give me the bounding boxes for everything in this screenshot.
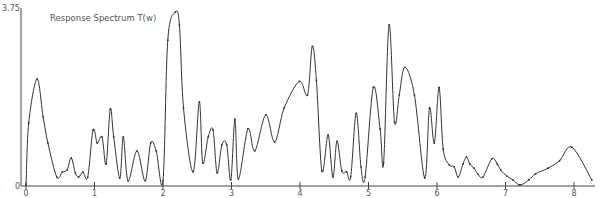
chart-canvas: 012345678 3.75 0 Response Spectrum T(w) (0, 0, 601, 198)
x-tick-label: 4 (297, 189, 302, 198)
data-point (78, 176, 80, 178)
data-point (332, 176, 334, 178)
data-point (254, 150, 256, 152)
x-tick-label: 7 (503, 189, 508, 198)
data-point (155, 150, 157, 152)
data-point (183, 107, 185, 109)
x-tick-label: 2 (160, 189, 165, 198)
data-point (500, 169, 502, 171)
data-point (298, 80, 300, 82)
data-point (122, 136, 124, 138)
response-spectrum-chart: 012345678 3.75 0 Response Spectrum T(w) (0, 0, 601, 198)
data-point (383, 162, 385, 164)
data-point (42, 116, 44, 118)
data-point (360, 166, 362, 168)
data-point (307, 94, 309, 96)
data-point (462, 163, 464, 165)
data-point (528, 179, 530, 181)
data-point (167, 39, 169, 41)
data-point (216, 172, 218, 174)
data-point (162, 180, 164, 182)
data-point (473, 167, 475, 169)
data-point (496, 163, 498, 165)
data-point (109, 108, 111, 110)
data-point (56, 176, 58, 178)
data-point (237, 178, 239, 180)
data-point (547, 167, 549, 169)
data-point (491, 158, 493, 160)
data-point (438, 87, 440, 89)
x-tick-label: 3 (229, 189, 234, 198)
data-point (283, 107, 285, 109)
data-point (321, 170, 323, 172)
data-point (265, 114, 267, 116)
data-point (66, 169, 68, 171)
data-point (571, 146, 573, 148)
data-point (47, 142, 49, 144)
y-axis-origin-label: 0 (15, 182, 20, 191)
data-point (274, 141, 276, 143)
data-point (442, 148, 444, 150)
data-point (350, 176, 352, 178)
data-point (414, 94, 416, 96)
data-point (535, 173, 537, 175)
data-point (127, 180, 129, 182)
data-point (404, 66, 406, 68)
data-point (477, 173, 479, 175)
data-point (398, 94, 400, 96)
data-point (336, 140, 338, 142)
data-point (247, 128, 249, 130)
data-point (96, 142, 98, 144)
data-point (198, 101, 200, 103)
data-point (101, 136, 103, 138)
data-point (207, 136, 209, 138)
data-point (74, 172, 76, 174)
data-point (192, 171, 194, 173)
data-point (457, 176, 459, 178)
data-point (512, 179, 514, 181)
data-point (70, 157, 72, 159)
data-point (234, 118, 236, 120)
data-point (482, 176, 484, 178)
data-point (424, 177, 426, 179)
data-point (92, 129, 94, 131)
x-tick-label: 8 (571, 189, 576, 198)
data-point-markers (25, 11, 593, 186)
y-axis-max-label: 3.75 (2, 4, 20, 13)
data-point (433, 142, 435, 144)
data-point (87, 176, 89, 178)
data-point (25, 184, 27, 186)
data-point (61, 171, 63, 173)
data-point (202, 162, 204, 164)
data-point (36, 78, 38, 80)
data-point (519, 184, 521, 186)
data-point (311, 45, 313, 47)
data-point (346, 171, 348, 173)
data-point (355, 112, 357, 114)
data-point (226, 144, 228, 146)
data-point (105, 163, 107, 165)
data-point (230, 179, 232, 181)
data-point (591, 179, 593, 181)
data-point (372, 87, 374, 89)
chart-title: Response Spectrum T(w) (50, 13, 156, 23)
data-point (453, 166, 455, 168)
data-point (388, 24, 390, 26)
data-point (113, 136, 115, 138)
response-spectrum-line (26, 11, 592, 186)
data-point (212, 129, 214, 131)
data-point (364, 176, 366, 178)
data-point (119, 177, 121, 179)
data-point (82, 171, 84, 173)
x-tick-label: 1 (92, 189, 97, 198)
data-point (144, 180, 146, 182)
data-point (469, 163, 471, 165)
data-point (559, 160, 561, 162)
x-tick-label: 6 (434, 189, 439, 198)
data-point (28, 122, 30, 124)
data-point (221, 144, 223, 146)
data-point (174, 11, 176, 13)
data-point (394, 121, 396, 123)
data-point (379, 128, 381, 130)
data-point (179, 24, 181, 26)
